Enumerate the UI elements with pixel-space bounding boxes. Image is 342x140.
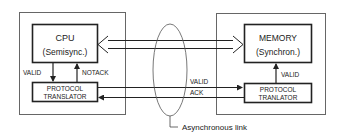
link-valid-label: VALID bbox=[190, 78, 209, 85]
left-translator-line1: PROTOCOL bbox=[47, 85, 84, 92]
memory-subtitle: (Synchron.) bbox=[256, 47, 300, 57]
async-link-ellipse bbox=[153, 24, 187, 116]
data-bus-arrow bbox=[98, 36, 243, 53]
left-translator-line2: TRANSLATOR bbox=[43, 93, 86, 100]
callout-leader bbox=[170, 116, 178, 127]
async-link-callout: Asynchronous link bbox=[182, 123, 248, 132]
diagram-canvas: CPU (Semisync.) PROTOCOL TRANSLATOR VALI… bbox=[0, 0, 342, 140]
cpu-subtitle: (Semisync.) bbox=[43, 47, 88, 57]
cpu-valid-label: VALID bbox=[23, 69, 42, 76]
cpu-notack-label: NOTACK bbox=[82, 69, 109, 76]
memory-title: MEMORY bbox=[259, 33, 297, 43]
link-ack-label: ACK bbox=[190, 89, 204, 96]
right-translator-line1: PROTOCOL bbox=[260, 86, 297, 93]
memory-valid-label: VALID bbox=[281, 71, 300, 78]
right-translator-line2: TRANLATOR bbox=[259, 94, 298, 101]
cpu-title: CPU bbox=[55, 33, 74, 43]
